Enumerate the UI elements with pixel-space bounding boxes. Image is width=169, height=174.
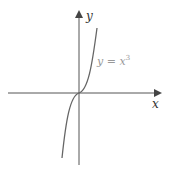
curve-label: y = x3 xyxy=(96,54,130,68)
cubic-graph: y x y = x3 xyxy=(0,0,169,174)
y-axis-label: y xyxy=(85,9,93,23)
x-axis-label: x xyxy=(152,97,159,111)
